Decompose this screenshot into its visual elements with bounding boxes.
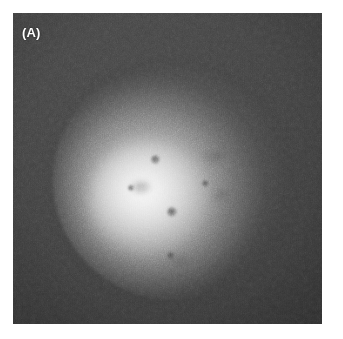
figure-root: (A) [0,0,343,339]
panel-label: (A) [22,26,41,39]
micrograph-image-panel: (A) [13,13,322,324]
scan-line-texture [13,13,322,324]
